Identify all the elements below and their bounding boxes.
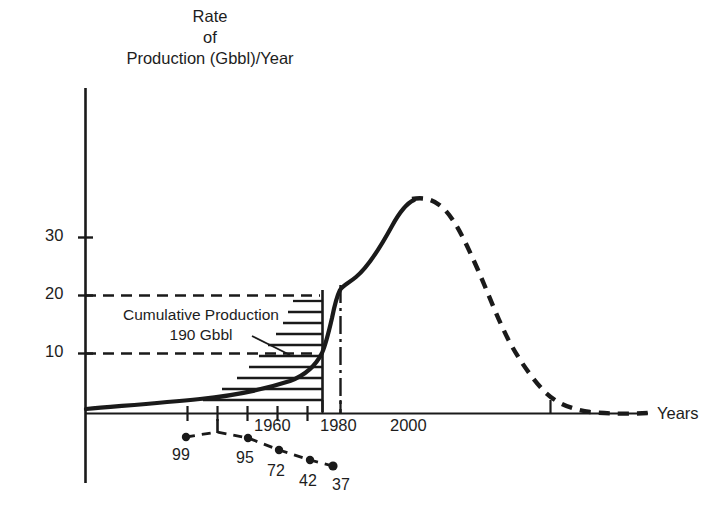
lower-series-point-37 [328, 461, 337, 470]
x-axis-label: Years [657, 404, 699, 423]
chart-plot-area [0, 0, 727, 522]
x-tick-label-1980: 1980 [320, 416, 357, 435]
x-tick-label-2000: 2000 [390, 416, 427, 435]
cumulative-production-annotation: Cumulative Production 190 Gbbl [96, 305, 306, 345]
x-tick-marks [188, 400, 551, 421]
point-label-72: 72 [267, 462, 285, 480]
lower-series-point-95 [244, 434, 252, 442]
annotation-line-2: 190 Gbbl [96, 325, 306, 345]
chart-figure: Rate of Production (Gbbl)/Year [0, 0, 727, 522]
annotation-line-1: Cumulative Production [96, 305, 306, 325]
production-curve-dashed [412, 198, 648, 413]
point-label-42: 42 [299, 472, 317, 490]
lower-series-point-99 [182, 433, 190, 441]
point-label-99: 99 [172, 446, 190, 464]
point-label-95: 95 [236, 449, 254, 467]
lower-series-points [182, 433, 338, 471]
lower-series-point-42 [306, 456, 314, 464]
lower-series-point-72 [275, 446, 283, 454]
y-tick-label-20: 20 [45, 284, 63, 303]
y-tick-label-30: 30 [45, 226, 63, 245]
point-label-37: 37 [332, 476, 350, 494]
y-tick-label-10: 10 [45, 342, 63, 361]
x-tick-label-1960: 1960 [254, 416, 291, 435]
